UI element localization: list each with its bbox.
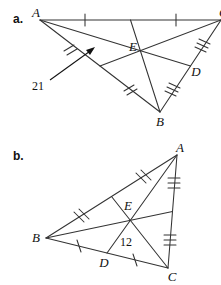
- point-label-D: D: [190, 64, 201, 79]
- vertex-label-C: C: [219, 5, 221, 20]
- measure-label-12: 12: [120, 235, 132, 249]
- point-label-D: D: [98, 255, 109, 270]
- point-label-E: E: [123, 198, 132, 213]
- median-C-to-midAB: [100, 20, 221, 66]
- vertex-label-A: A: [175, 140, 184, 155]
- vertex-label-A: A: [31, 5, 40, 20]
- vertex-label-B: B: [32, 230, 40, 245]
- ticks-C-D: [195, 39, 210, 52]
- vertex-label-B: B: [156, 114, 164, 129]
- median-B-to-midAC: [46, 212, 173, 239]
- part-b-diagram: A B C E D 12: [0, 140, 221, 285]
- geometry-figure-sheet: a. b.: [0, 0, 221, 285]
- point-label-E: E: [128, 39, 137, 54]
- vertex-label-C: C: [168, 269, 177, 284]
- part-a-diagram: A B C E D 21: [0, 0, 221, 142]
- measure-label-21: 21: [32, 79, 44, 93]
- median-B-to-midAC: [131, 20, 161, 112]
- median-A-to-midCB: [40, 20, 191, 66]
